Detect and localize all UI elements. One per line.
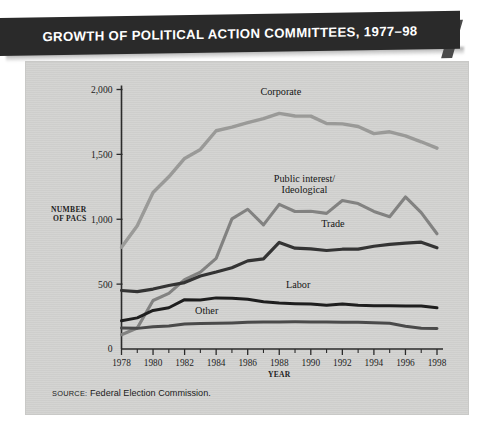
x-tick-label: 1998 (428, 358, 447, 368)
series-label-labor: Labor (286, 279, 311, 290)
series-line-public-interest (122, 197, 438, 335)
series-line-trade (122, 242, 438, 291)
y-tick-label: 1,500 (91, 149, 113, 160)
y-tick-label: 0 (108, 343, 113, 354)
x-tick-label: 1992 (333, 358, 352, 368)
y-axis-title-line2: OF PACS (53, 214, 87, 223)
series-label-public-interest: Public interest/ (274, 173, 336, 184)
series-label-other: Other (195, 305, 219, 316)
series-label-public-interest: Ideological (282, 184, 328, 195)
x-tick-label: 1996 (396, 358, 415, 368)
x-tick-label: 1984 (207, 358, 226, 368)
source-note: SOURCE: Federal Election Commission. (52, 388, 211, 398)
series-label-corporate: Corporate (260, 86, 301, 97)
x-axis-title: YEAR (268, 370, 291, 379)
series-line-labor (122, 298, 438, 321)
chart-plot: 05001,0001,5002,000NUMBEROF PACS19781980… (0, 0, 494, 435)
x-tick-label: 1994 (365, 358, 384, 368)
x-tick-label: 1982 (175, 358, 194, 368)
y-tick-label: 500 (98, 279, 113, 290)
x-tick-label: 1988 (270, 358, 289, 368)
y-tick-label: 2,000 (91, 84, 113, 95)
source-text: Federal Election Commission. (90, 388, 211, 398)
x-tick-label: 1986 (238, 358, 257, 368)
source-keyword: SOURCE: (52, 389, 87, 398)
series-line-other (122, 322, 438, 329)
x-tick-label: 1978 (112, 358, 131, 368)
y-tick-label: 1,000 (91, 214, 113, 225)
figure-container: GROWTH OF POLITICAL ACTION COMMITTEES, 1… (0, 0, 494, 435)
series-label-trade: Trade (321, 218, 345, 229)
y-axis-title-line1: NUMBER (51, 205, 87, 214)
x-tick-label: 1980 (144, 358, 163, 368)
x-tick-label: 1990 (302, 358, 321, 368)
